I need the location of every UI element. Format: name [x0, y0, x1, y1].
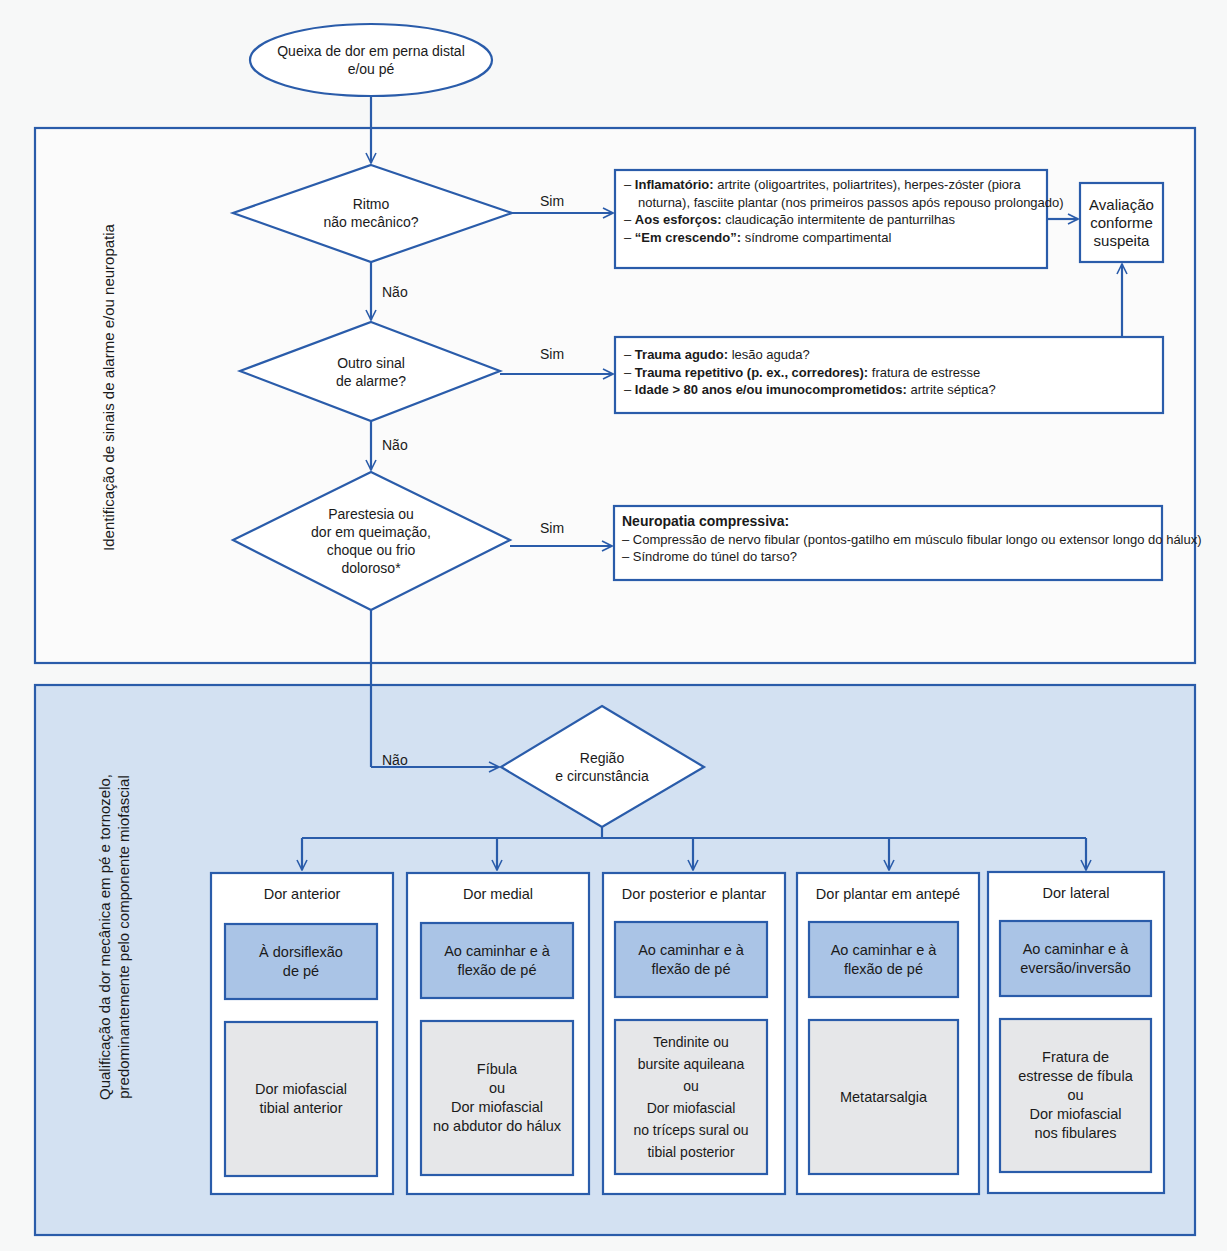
result3-item-tarsal-tunnel: – Síndrome do túnel do tarso?: [622, 548, 1202, 566]
start-text-line1: Queixa de dor em perna distal: [250, 42, 492, 60]
diag-line: ou: [1018, 1086, 1132, 1105]
diag-line: Dor miofascial: [1018, 1105, 1132, 1124]
column-posterior-diagnosis: Tendinite oubursite aquileanaouDor miofa…: [615, 1020, 767, 1174]
column-lateral-circumstance: Ao caminhar e àeversão/inversão: [1000, 921, 1151, 996]
decision2-yes-label: Sim: [540, 346, 564, 362]
diag-line: Dor miofascial: [255, 1080, 347, 1099]
circ-line: Ao caminhar e à: [831, 941, 937, 960]
decision4-line2: e circunstância: [510, 767, 694, 785]
circ-line: Ao caminhar e à: [444, 942, 550, 961]
diag-line: no tríceps sural ou: [633, 1119, 748, 1141]
result1-content: – Inflamatório: artrite (oligoartrites, …: [624, 176, 1064, 246]
column-forefoot-title: Dor plantar em antepé: [797, 886, 979, 902]
decision3-line4: doloroso*: [290, 559, 452, 577]
column-anterior-diagnosis: Dor miofascialtibial anterior: [225, 1022, 377, 1176]
start-text-line2: e/ou pé: [250, 60, 492, 78]
diag-line: ou: [633, 1075, 748, 1097]
result2-item-repetitive-trauma: – Trauma repetitivo (p. ex., corredores)…: [624, 364, 996, 382]
decision3-line2: dor em queimação,: [290, 523, 452, 541]
decision4-line1: Região: [510, 749, 694, 767]
diag-line: Dor miofascial: [633, 1097, 748, 1119]
diag-line: Dor miofascial: [433, 1098, 561, 1117]
circ-line: de pé: [259, 962, 343, 981]
diag-line: Tendinite ou: [633, 1031, 748, 1053]
diag-line: nos fibulares: [1018, 1124, 1132, 1143]
result1-item-inflammatory: – Inflamatório: artrite (oligoartrites, …: [624, 176, 1064, 194]
decision3-no-label: Não: [382, 752, 408, 768]
mechanical-label-line2: predominantemente pelo componente miofas…: [114, 727, 133, 1147]
circ-line: flexão de pé: [638, 960, 744, 979]
column-forefoot-diagnosis: Metatarsalgia: [809, 1020, 958, 1174]
decision2-text: Outro sinal de alarme?: [290, 354, 452, 390]
result3-item-fibular: – Compressão de nervo fibular (pontos-ga…: [622, 531, 1202, 549]
decision3-text: Parestesia ou dor em queimação, choque o…: [290, 505, 452, 577]
circ-line: eversão/inversão: [1020, 959, 1130, 978]
evaluation-line1: Avaliação: [1080, 196, 1163, 214]
decision1-line2: não mecânico?: [290, 213, 452, 231]
circ-line: À dorsiflexão: [259, 943, 343, 962]
result1-item-inflammatory-cont: noturna), fasciite plantar (nos primeiro…: [624, 194, 1064, 212]
diag-line: Fratura de: [1018, 1048, 1132, 1067]
decision4-text: Região e circunstância: [510, 749, 694, 785]
decision1-no-label: Não: [382, 284, 408, 300]
evaluation-text: Avaliação conforme suspeita: [1080, 196, 1163, 250]
mechanical-section-label: Qualificação da dor mecânica em pé e tor…: [95, 727, 133, 1147]
decision1-line1: Ritmo: [290, 195, 452, 213]
diag-line: no abdutor do hálux: [433, 1117, 561, 1136]
result3-title: Neuropatia compressiva:: [622, 513, 1202, 531]
result1-item-effort: – Aos esforços: claudicação intermitente…: [624, 211, 1064, 229]
column-medial-title: Dor medial: [407, 886, 589, 902]
decision1-yes-label: Sim: [540, 193, 564, 209]
decision2-no-label: Não: [382, 437, 408, 453]
diag-line: bursite aquileana: [633, 1053, 748, 1075]
evaluation-line2: conforme: [1080, 214, 1163, 232]
column-forefoot-circumstance: Ao caminhar e àflexão de pé: [809, 922, 958, 997]
diag-line: Metatarsalgia: [840, 1088, 927, 1107]
column-posterior-circumstance: Ao caminhar e àflexão de pé: [615, 922, 767, 997]
circ-line: flexão de pé: [831, 960, 937, 979]
decision2-line1: Outro sinal: [290, 354, 452, 372]
decision1-text: Ritmo não mecânico?: [290, 195, 452, 231]
mechanical-label-line1: Qualificação da dor mecânica em pé e tor…: [95, 727, 114, 1147]
circ-line: Ao caminhar e à: [638, 941, 744, 960]
result3-content: Neuropatia compressiva: – Compressão de …: [622, 513, 1202, 566]
result2-item-acute-trauma: – Trauma agudo: lesão aguda?: [624, 346, 996, 364]
diag-line: Fíbula: [433, 1060, 561, 1079]
alarm-section-label: Identificação de sinais de alarme e/ou n…: [99, 168, 118, 608]
result2-content: – Trauma agudo: lesão aguda? – Trauma re…: [624, 346, 996, 399]
decision3-line1: Parestesia ou: [290, 505, 452, 523]
column-posterior-title: Dor posterior e plantar: [603, 886, 785, 902]
column-lateral-title: Dor lateral: [988, 885, 1164, 901]
decision2-line2: de alarme?: [290, 372, 452, 390]
diag-line: ou: [433, 1079, 561, 1098]
start-node: Queixa de dor em perna distal e/ou pé: [250, 42, 492, 78]
decision3-yes-label: Sim: [540, 520, 564, 536]
column-medial-circumstance: Ao caminhar e àflexão de pé: [421, 923, 573, 998]
column-anterior-circumstance: À dorsiflexãode pé: [225, 924, 377, 999]
diag-line: tibial posterior: [633, 1141, 748, 1163]
decision3-line3: choque ou frio: [290, 541, 452, 559]
result1-item-crescendo: – “Em crescendo”: síndrome compartimenta…: [624, 229, 1064, 247]
diag-line: tibial anterior: [255, 1099, 347, 1118]
circ-line: Ao caminhar e à: [1020, 940, 1130, 959]
diag-line: estresse de fíbula: [1018, 1067, 1132, 1086]
column-lateral-diagnosis: Fratura deestresse de fíbulaouDor miofas…: [1000, 1019, 1151, 1172]
circ-line: flexão de pé: [444, 961, 550, 980]
foot-pain-flowchart: Queixa de dor em perna distal e/ou pé Id…: [0, 0, 1227, 1251]
result2-item-age: – Idade > 80 anos e/ou imunocomprometido…: [624, 381, 996, 399]
column-medial-diagnosis: FíbulaouDor miofascialno abdutor do hálu…: [421, 1021, 573, 1175]
evaluation-line3: suspeita: [1080, 232, 1163, 250]
column-anterior-title: Dor anterior: [211, 886, 393, 902]
